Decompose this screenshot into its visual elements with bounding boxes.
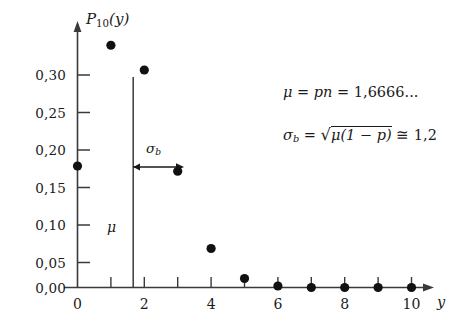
sigma-arrow-head-left: [133, 163, 140, 170]
data-point: [340, 283, 349, 292]
sigma-arrow-label-subscript: b: [155, 146, 161, 157]
y-axis-title-symbol: P: [86, 10, 96, 28]
sigma-formula-radicand-group: μ(1 − p): [331, 125, 392, 143]
mu-formula-pn: pn: [314, 84, 333, 100]
x-tick-label-6: 6: [263, 296, 293, 312]
y-tick-label-0-20: 0,20: [14, 142, 66, 158]
y-tick-label-0-15: 0,15: [14, 180, 66, 196]
y-tick-label-0-00: 0,00: [14, 280, 66, 296]
x-tick-label-4: 4: [196, 296, 226, 312]
mu-formula-annotation: μ = pn = 1,6666...: [283, 84, 418, 100]
sigma-formula-value: 1,2: [414, 127, 437, 143]
x-axis-arrowhead: [423, 284, 434, 292]
data-point: [240, 274, 249, 283]
y-axis: [74, 21, 82, 288]
data-point: [173, 167, 182, 176]
y-tick-label-0-10: 0,10: [14, 217, 66, 233]
x-axis-title: y: [437, 294, 445, 310]
plot-canvas: [0, 0, 465, 330]
sigma-formula-equals: =: [304, 127, 316, 143]
data-point: [140, 65, 149, 74]
sigma-formula-sigma: σ: [283, 127, 293, 143]
data-point: [374, 283, 383, 292]
sigma-formula-radicand: μ(1 − p): [331, 127, 392, 143]
mu-formula-equals-2: =: [337, 84, 349, 100]
mu-formula-value: 1,6666: [354, 84, 405, 100]
y-axis-title: P10(y): [86, 10, 129, 29]
data-point: [106, 41, 115, 50]
mu-line-label: μ: [107, 219, 116, 235]
data-point: [273, 281, 282, 290]
mu-formula-equals-1: =: [297, 84, 309, 100]
sigma-formula-radical-sign: √: [321, 125, 331, 144]
mu-formula-ellipsis: ...: [405, 84, 419, 100]
y-axis-arrowhead: [74, 21, 82, 32]
sigma-arrow-label-symbol: σ: [146, 140, 155, 156]
x-tick-label-8: 8: [330, 296, 360, 312]
data-point: [207, 244, 216, 253]
y-axis-title-argument: (y): [109, 10, 129, 28]
x-tick-label-0: 0: [63, 296, 93, 312]
y-tick-label-0-25: 0,25: [14, 105, 66, 121]
y-tick-label-0-30: 0,30: [14, 67, 66, 83]
x-tick-label-2: 2: [129, 296, 159, 312]
y-tick-label-0-05: 0,05: [14, 255, 66, 271]
radical-overbar: [331, 126, 392, 127]
y-axis-title-subscript: 10: [96, 18, 109, 29]
x-axis-ticks: [111, 277, 412, 288]
sigma-formula-annotation: σb = √μ(1 − p) ≅ 1,2: [283, 125, 437, 144]
sigma-b-arrow-label: σb: [146, 140, 161, 157]
binomial-distribution-figure: 0,30 0,25 0,20 0,15 0,10 0,05 0,00 0 2 4…: [0, 0, 465, 330]
data-point: [407, 283, 416, 292]
data-point-markers: [73, 41, 416, 292]
data-point: [307, 283, 316, 292]
data-point: [73, 161, 82, 170]
x-tick-label-10: 10: [397, 296, 427, 312]
sigma-formula-approx: ≅: [396, 127, 409, 143]
